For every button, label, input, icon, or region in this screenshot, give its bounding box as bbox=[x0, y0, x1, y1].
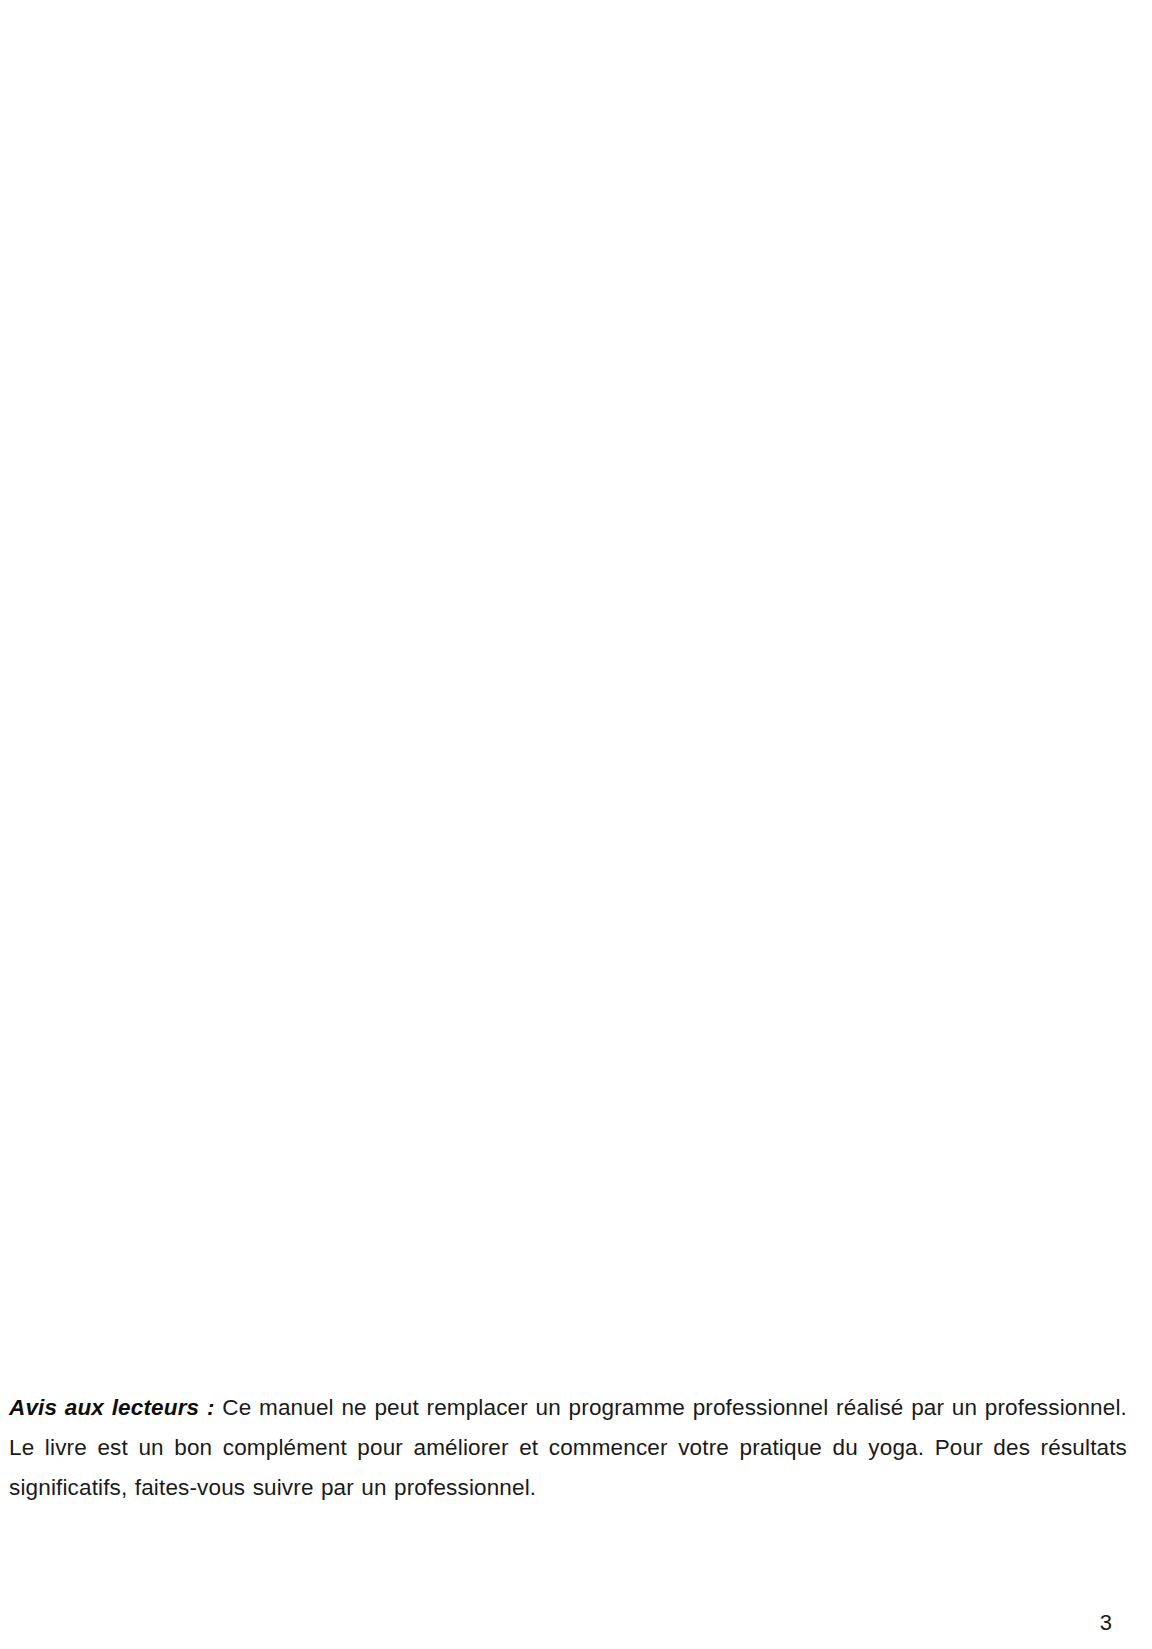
page-number: 3 bbox=[1100, 1610, 1112, 1636]
notice-label: Avis aux lecteurs : bbox=[9, 1395, 215, 1420]
document-page: Avis aux lecteurs : Ce manuel ne peut re… bbox=[0, 0, 1152, 1649]
reader-notice: Avis aux lecteurs : Ce manuel ne peut re… bbox=[9, 1388, 1127, 1508]
